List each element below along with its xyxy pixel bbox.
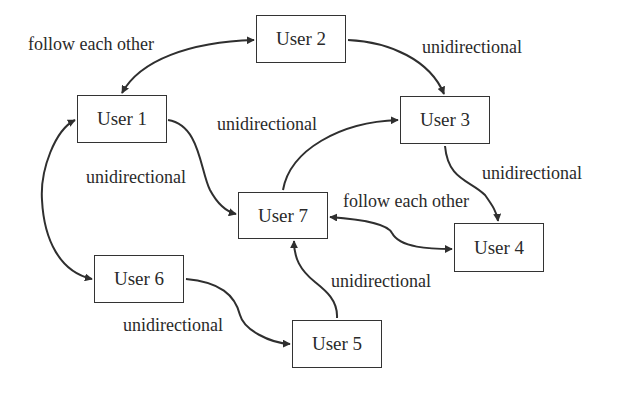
edge-label-user6-user5: unidirectional bbox=[123, 316, 223, 334]
node-user7[interactable]: User 7 bbox=[238, 192, 328, 239]
node-label: User 1 bbox=[97, 108, 147, 130]
node-label: User 7 bbox=[258, 205, 308, 227]
node-user5[interactable]: User 5 bbox=[292, 320, 382, 368]
node-user4[interactable]: User 4 bbox=[454, 223, 544, 272]
node-user2[interactable]: User 2 bbox=[256, 15, 346, 63]
edge-user1-user6 bbox=[42, 120, 92, 279]
node-label: User 3 bbox=[420, 109, 470, 131]
node-label: User 2 bbox=[276, 28, 326, 50]
edge-label-user5-user7: unidirectional bbox=[331, 272, 431, 290]
node-user3[interactable]: User 3 bbox=[400, 96, 490, 144]
edge-label-user7-user4: follow each other bbox=[343, 192, 469, 210]
node-user1[interactable]: User 1 bbox=[77, 95, 167, 143]
node-label: User 6 bbox=[114, 268, 164, 290]
node-label: User 5 bbox=[312, 333, 362, 355]
node-label: User 4 bbox=[474, 237, 524, 259]
edge-label-user3-user4: unidirectional bbox=[482, 164, 582, 182]
edge-label-user1-user7: unidirectional bbox=[86, 168, 186, 186]
edge-label-user2-user3: unidirectional bbox=[422, 38, 522, 56]
edge-label-user1-user2: follow each other bbox=[28, 35, 154, 53]
edge-user7-user4 bbox=[330, 217, 452, 249]
edge-label-user7-user3: unidirectional bbox=[217, 115, 317, 133]
node-user6[interactable]: User 6 bbox=[94, 255, 184, 303]
